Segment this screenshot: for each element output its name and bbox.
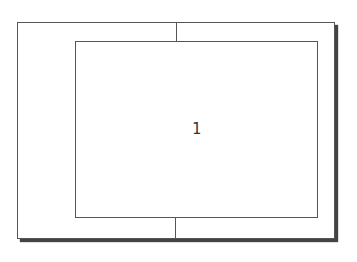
bottom-connector-line bbox=[175, 218, 176, 239]
inner-frame-label: 1 bbox=[192, 120, 201, 138]
top-connector-line bbox=[176, 22, 177, 41]
inner-frame-label-container: 1 bbox=[75, 41, 318, 218]
